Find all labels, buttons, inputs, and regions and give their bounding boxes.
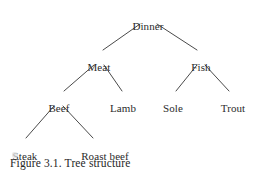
tree-node-lamb: Lamb [110, 102, 136, 114]
tree-edges-layer [0, 0, 261, 175]
tree-diagram-figure: DinnerMeatFishBeefLambSoleTroutSteakRoas… [0, 0, 261, 175]
tree-node-fish: Fish [191, 61, 210, 73]
tree-node-meat: Meat [87, 61, 110, 73]
tree-node-sole: Sole [163, 102, 183, 114]
figure-caption: Figure 3.1. Tree structure [10, 157, 130, 170]
tree-node-beef: Beef [48, 102, 69, 114]
tree-node-trout: Trout [221, 102, 246, 114]
tree-node-dinner: Dinner [132, 20, 163, 32]
